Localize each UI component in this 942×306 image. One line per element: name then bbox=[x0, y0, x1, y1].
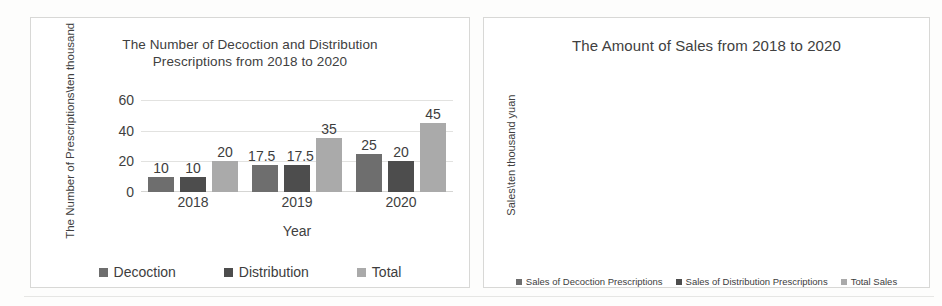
bar-total-2019[interactable]: 35 bbox=[316, 138, 342, 192]
bar-group-2020: 25 20 45 bbox=[349, 100, 453, 192]
bar-label-distribution-2019: 17.5 bbox=[287, 148, 314, 164]
plot-area-prescriptions: 60 40 20 0 10 10 bbox=[141, 100, 453, 192]
bar-chart-sales: The Amount of Sales from 2018 to 2020 Sa… bbox=[484, 18, 929, 287]
legend-item-sales-distribution[interactable]: Sales of Distribution Prescriptions bbox=[676, 276, 828, 287]
bar-decoction-2018[interactable]: 10 bbox=[148, 177, 174, 192]
y-axis-title-sales: Sales\ten thousand yuan bbox=[493, 76, 529, 252]
bar-slot-total-2019: 35 bbox=[316, 100, 342, 192]
bar-label-total-2020: 45 bbox=[425, 106, 441, 122]
bar-group-2019: 17.5 17.5 35 bbox=[245, 100, 349, 192]
bar-decoction-2020[interactable]: 25 bbox=[356, 154, 382, 192]
legend-label-sales-distribution: Sales of Distribution Prescriptions bbox=[686, 276, 828, 287]
legend-sales: Sales of Decoction Prescriptions Sales o… bbox=[484, 276, 929, 287]
bar-label-distribution-2018: 10 bbox=[185, 160, 201, 176]
chart-title-prescriptions: The Number of Decoction and Distribution… bbox=[31, 36, 469, 71]
bar-group-2018: 10 10 20 bbox=[141, 100, 245, 192]
legend-label-decoction: Decoction bbox=[114, 264, 176, 280]
bar-slot-decoction-2020: 25 bbox=[356, 100, 382, 192]
bar-label-total-2019: 35 bbox=[321, 121, 337, 137]
bar-label-distribution-2020: 20 bbox=[393, 144, 409, 160]
bar-slot-total-2020: 45 bbox=[420, 100, 446, 192]
legend-label-total: Total bbox=[372, 264, 402, 280]
legend-label-distribution: Distribution bbox=[239, 264, 309, 280]
y-tick-40: 40 bbox=[118, 123, 141, 139]
bar-slot-decoction-2018: 10 bbox=[148, 100, 174, 192]
y-tick-60: 60 bbox=[118, 92, 141, 108]
chart-title-line-1: The Number of Decoction and Distribution bbox=[71, 36, 429, 53]
bar-distribution-2019[interactable]: 17.5 bbox=[284, 165, 310, 192]
legend-swatch-icon-distribution bbox=[224, 268, 233, 277]
legend-swatch-icon-total-sales bbox=[841, 279, 847, 285]
bar-slot-distribution-2019: 17.5 bbox=[284, 100, 310, 192]
bar-groups-prescriptions: 10 10 20 bbox=[141, 100, 453, 192]
y-tick-0: 0 bbox=[126, 184, 141, 200]
legend-item-decoction[interactable]: Decoction bbox=[99, 264, 176, 280]
bar-decoction-2019[interactable]: 17.5 bbox=[252, 165, 278, 192]
legend-label-total-sales: Total Sales bbox=[851, 276, 897, 287]
bar-distribution-2018[interactable]: 10 bbox=[180, 177, 206, 192]
legend-swatch-icon-sales-decoction bbox=[516, 279, 522, 285]
chart-title-sales: The Amount of Sales from 2018 to 2020 bbox=[484, 36, 929, 55]
bar-label-decoction-2018: 10 bbox=[153, 160, 169, 176]
legend-swatch-icon-decoction bbox=[99, 268, 108, 277]
x-axis-categories-prescriptions: 2018 2019 2020 bbox=[141, 194, 453, 210]
y-axis-title-prescriptions: The Number of Prescriptions\ten thousand bbox=[45, 48, 95, 258]
y-axis-title-text: The Number of Prescriptions\ten thousand bbox=[64, 23, 76, 239]
bar-slot-distribution-2018: 10 bbox=[180, 100, 206, 192]
scan-edge-line bbox=[24, 296, 934, 297]
bar-total-2020[interactable]: 45 bbox=[420, 123, 446, 192]
bar-slot-decoction-2019: 17.5 bbox=[252, 100, 278, 192]
legend-item-sales-decoction[interactable]: Sales of Decoction Prescriptions bbox=[516, 276, 663, 287]
x-category-2020: 2020 bbox=[349, 194, 453, 210]
chart-title-line-2: Prescriptions from 2018 to 2020 bbox=[71, 53, 429, 70]
bar-label-decoction-2019: 17.5 bbox=[248, 148, 275, 164]
x-category-2018: 2018 bbox=[141, 194, 245, 210]
legend-item-total[interactable]: Total bbox=[357, 264, 402, 280]
legend-swatch-icon-sales-distribution bbox=[676, 279, 682, 285]
y-tick-20: 20 bbox=[118, 153, 141, 169]
legend-label-sales-decoction: Sales of Decoction Prescriptions bbox=[526, 276, 663, 287]
bar-chart-prescriptions: The Number of Decoction and Distribution… bbox=[31, 18, 469, 287]
legend-swatch-icon-total bbox=[357, 268, 366, 277]
legend-item-total-sales[interactable]: Total Sales bbox=[841, 276, 897, 287]
chart-panel-prescriptions: The Number of Decoction and Distribution… bbox=[30, 17, 470, 288]
legend-prescriptions: Decoction Distribution Total bbox=[31, 264, 469, 280]
bar-total-2018[interactable]: 20 bbox=[212, 161, 238, 192]
bar-distribution-2020[interactable]: 20 bbox=[388, 161, 414, 192]
chart-panel-sales: The Amount of Sales from 2018 to 2020 Sa… bbox=[483, 17, 930, 288]
y-axis-title-text: Sales\ten thousand yuan bbox=[505, 94, 517, 215]
bar-label-decoction-2020: 25 bbox=[361, 137, 377, 153]
x-axis-title-prescriptions: Year bbox=[141, 223, 453, 239]
legend-item-distribution[interactable]: Distribution bbox=[224, 264, 309, 280]
bar-slot-total-2018: 20 bbox=[212, 100, 238, 192]
x-category-2019: 2019 bbox=[245, 194, 349, 210]
bar-label-total-2018: 20 bbox=[217, 144, 233, 160]
chart-title-line-1: The Amount of Sales from 2018 to 2020 bbox=[484, 36, 929, 55]
bar-slot-distribution-2020: 20 bbox=[388, 100, 414, 192]
